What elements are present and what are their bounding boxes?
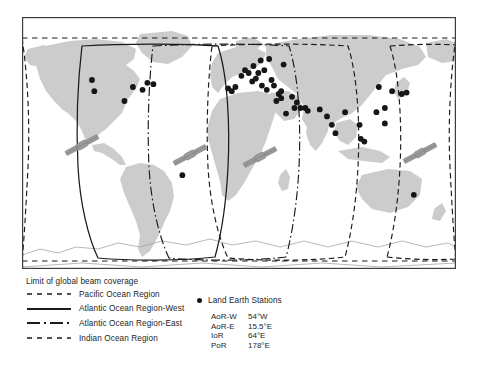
satellite-longitude-row: AoR-W54°W <box>211 312 272 322</box>
satellite-code: PoR <box>211 341 248 351</box>
land-earth-station-marker <box>122 98 128 104</box>
land-earth-station-marker <box>342 109 348 115</box>
legend-item-atlantic-ocean-region-east[interactable]: Atlantic Ocean Region-East <box>26 316 206 331</box>
line-style-swatch-dashed <box>26 289 72 299</box>
land-earth-station-marker <box>255 70 261 76</box>
land-earth-station-marker <box>266 56 272 62</box>
land-earth-station-marker <box>382 105 388 111</box>
land-earth-station-marker <box>259 83 265 89</box>
land-earth-station-marker <box>278 88 284 94</box>
land-earth-station-marker <box>317 107 323 113</box>
land-earth-station-marker <box>89 77 95 83</box>
land-earth-station-marker <box>361 139 367 145</box>
land-earth-station-marker <box>278 95 284 101</box>
legend-stations-label: Land Earth Stations <box>202 296 282 305</box>
land-earth-station-marker <box>281 62 287 68</box>
land-earth-station-marker <box>283 111 289 117</box>
legend-item-indian-ocean-region[interactable]: Indian Ocean Region <box>26 331 206 346</box>
line-style-swatch-solid <box>26 304 72 314</box>
legend-item-atlantic-ocean-region-west[interactable]: Atlantic Ocean Region-West <box>26 302 206 317</box>
land-earth-station-marker <box>324 114 330 120</box>
land-earth-station-marker <box>140 87 146 93</box>
land-earth-station-marker <box>264 87 270 93</box>
land-earth-station-marker <box>261 67 267 73</box>
land-earth-station-marker <box>151 81 157 87</box>
legend-item-label: Pacific Ocean Region <box>72 290 160 299</box>
satellite-code: AoR-W <box>211 312 248 322</box>
satellite-longitude-row: PoR178°E <box>211 341 272 351</box>
line-style-swatch-dashed <box>26 333 72 343</box>
land-earth-station-marker <box>239 73 245 79</box>
land-earth-station-marker <box>305 108 311 114</box>
satellite-longitude: 54°W <box>248 312 272 322</box>
satellite-longitude: 64°E <box>248 331 272 341</box>
land-earth-station-marker <box>232 84 238 90</box>
legend-stations-group: Land Earth Stations AoR-W54°WAoR-E15.5°E… <box>197 294 367 350</box>
legend-item-pacific-ocean-region[interactable]: Pacific Ocean Region <box>26 287 206 302</box>
land-earth-station-marker <box>246 70 252 76</box>
satellite-code: IoR <box>211 331 248 341</box>
land-earth-station-marker <box>251 63 257 69</box>
world-coverage-map <box>22 17 456 269</box>
land-earth-station-marker <box>376 84 382 90</box>
land-earth-station-marker <box>179 172 185 178</box>
satellite-longitude-row: IoR64°E <box>211 331 272 341</box>
legend: Limit of global beam coverage Pacific Oc… <box>0 276 478 372</box>
map-canvas <box>22 17 456 269</box>
land-earth-station-marker <box>144 80 150 86</box>
land-earth-station-marker <box>404 90 410 96</box>
line-style-swatch-dash-dot <box>26 318 72 328</box>
land-earth-station-marker <box>253 76 259 82</box>
land-earth-station-marker <box>130 84 136 90</box>
land-earth-station-marker <box>292 105 298 111</box>
land-earth-station-marker <box>374 109 380 115</box>
legend-item-label: Atlantic Ocean Region-West <box>72 304 184 313</box>
satellite-longitude: 15.5°E <box>248 322 272 332</box>
legend-coverage-group: Limit of global beam coverage Pacific Oc… <box>26 276 206 345</box>
satellite-longitude: 178°E <box>248 341 272 351</box>
land-earth-station-marker <box>382 121 388 127</box>
land-earth-station-marker <box>91 88 97 94</box>
land-earth-station-marker <box>271 83 277 89</box>
land-earth-station-marker <box>289 94 295 100</box>
land-earth-station-marker <box>333 130 339 136</box>
legend-item-label: Atlantic Ocean Region-East <box>72 319 182 328</box>
land-earth-station-marker <box>329 122 335 128</box>
legend-item-label: Indian Ocean Region <box>72 334 158 343</box>
satellite-longitude-row: AoR-E15.5°E <box>211 322 272 332</box>
land-earth-station-marker <box>294 100 300 106</box>
land-earth-station-marker <box>411 192 417 198</box>
land-earth-station-marker <box>269 77 275 83</box>
land-earth-station-marker <box>357 122 363 128</box>
satellite-code: AoR-E <box>211 322 248 332</box>
land-earth-station-marker <box>389 88 395 94</box>
legend-item-land-earth-stations[interactable]: Land Earth Stations <box>197 294 367 306</box>
land-earth-station-marker <box>258 58 264 64</box>
figure-root: Limit of global beam coverage Pacific Oc… <box>0 0 478 372</box>
satellite-longitude-table: AoR-W54°WAoR-E15.5°EIoR64°EPoR178°E <box>211 312 272 350</box>
legend-title: Limit of global beam coverage <box>26 276 206 287</box>
